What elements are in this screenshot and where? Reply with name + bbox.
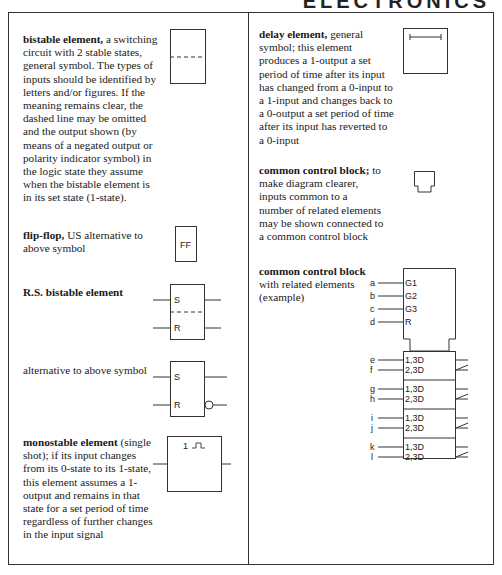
entry-delay-element: delay element, general symbol; this elem… [259,28,394,147]
control-pin-a: a [370,278,375,288]
monostable-symbol: 1 [153,436,233,494]
common-control-block-symbol [414,171,436,196]
element-pin-e: e [370,355,375,365]
element-pin-g: g [370,384,375,394]
entry-description: with related elements (example) [259,278,355,303]
control-pin-c: c [370,304,375,314]
entry-term: R.S. bistable element [23,286,123,298]
entry-description: general symbol; this element produces a … [259,28,394,146]
entry-term: flip-flop, [23,229,64,241]
control-label-r: R [405,317,412,327]
element-label: 1,3D [405,413,425,423]
element-label: 2,3D [405,423,425,433]
element-label: 2,3D [405,452,425,462]
element-label: 2,3D [405,365,425,375]
entry-common-control-block: common control block; to make diagram cl… [259,164,384,243]
flip-flop-symbol: FF [175,226,199,264]
entry-description: alternative to above symbol [23,364,147,376]
entry-rs-bistable-alt: alternative to above symbol [23,364,153,377]
entry-common-control-block-example: common control block with related elemen… [259,265,369,305]
element-label: 1,3D [405,384,425,394]
control-label-g3: G3 [405,304,417,314]
control-label-g1: G1 [405,278,417,288]
entry-description: (single shot); if its input changes from… [23,436,153,540]
control-pin-b: b [370,291,375,301]
element-pin-k: k [370,442,375,452]
set-input-label: S [174,295,180,305]
set-input-label: S [174,372,180,382]
reset-input-label: R [174,400,181,410]
symbol-label: FF [180,240,191,250]
column-divider [248,12,249,565]
entry-description: a switching circuit with 2 stable states… [23,33,157,203]
common-control-block-example: a G1 b G2 c G3 d R e 1,3D f 2,3D g 1,3D … [370,268,470,460]
rs-bistable-symbol: S R [153,284,223,342]
delay-element-symbol [403,28,449,76]
element-label: 1,3D [405,442,425,452]
element-pin-j: j [370,423,373,433]
element-label: 2,3D [405,394,425,404]
symbol-label: 1 [183,441,188,451]
bistable-general-symbol [170,29,208,85]
entry-flip-flop: flip-flop, US alternative to above symbo… [23,229,153,255]
entry-term: bistable element, [23,33,103,45]
entry-monostable: monostable element (single shot); if its… [23,436,153,542]
entry-term: monostable element [23,436,118,448]
element-label: 1,3D [405,355,425,365]
entry-rs-bistable: R.S. bistable element [23,286,153,299]
rs-bistable-alt-symbol: S R [153,361,229,419]
entry-term: delay element, [259,28,327,40]
element-pin-l: l [371,452,373,462]
entry-term: common control block [259,265,366,277]
element-pin-f: f [370,365,373,375]
reset-input-label: R [174,323,181,333]
element-pin-i: i [371,413,373,423]
pulse-icon [192,443,205,448]
entry-bistable-element: bistable element, a switching circuit wi… [23,33,158,205]
control-pin-d: d [370,317,375,327]
control-label-g2: G2 [405,291,417,301]
entry-term: common control block; [259,164,369,176]
element-pin-h: h [370,394,375,404]
